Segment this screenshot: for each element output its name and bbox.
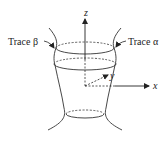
trace-alpha-label: Trace α	[128, 36, 159, 47]
trace-beta-label: Trace β	[8, 36, 38, 47]
x-axis-label: x	[152, 80, 158, 91]
neck-ellipse-front	[66, 114, 104, 118]
trace-beta-arrow	[44, 41, 54, 48]
hyperboloid-diagram: z x y Trace β Trace α	[0, 0, 168, 141]
y-axis	[85, 75, 108, 86]
z-axis-label: z	[83, 7, 88, 18]
neck-ellipse-back	[66, 110, 104, 114]
trace-alpha-arrow	[116, 41, 126, 47]
surface-left-outline	[48, 28, 65, 130]
y-axis-label: y	[109, 70, 115, 81]
